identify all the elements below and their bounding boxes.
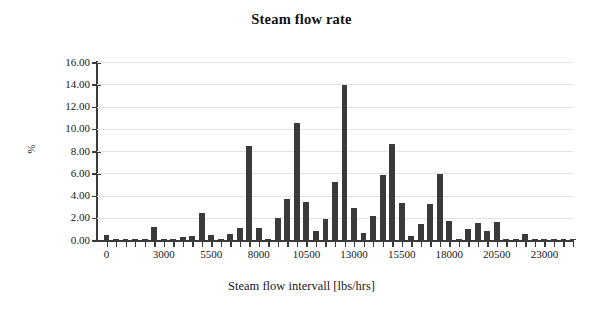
x-axis-tick-mark xyxy=(468,241,469,247)
x-axis-tick-mark xyxy=(249,241,250,247)
x-axis-tick-mark xyxy=(516,241,517,247)
x-axis-tick-mark xyxy=(354,241,355,247)
bar xyxy=(237,228,243,240)
x-axis-tick-mark xyxy=(478,241,479,247)
y-axis-tick-label: 2.00 xyxy=(44,212,90,223)
x-axis-tick-mark xyxy=(325,241,326,247)
gridline xyxy=(97,129,573,130)
gridline xyxy=(97,151,573,152)
bar xyxy=(361,233,367,240)
x-axis-tick-mark xyxy=(126,241,127,247)
x-axis-tick-mark xyxy=(345,241,346,247)
x-axis-tick-mark xyxy=(164,241,165,247)
y-axis-tick-labels: 16.0014.0012.0010.008.006.004.002.000.00 xyxy=(42,0,90,313)
chart-title: Steam flow rate xyxy=(0,11,603,28)
x-axis-tick-mark xyxy=(183,241,184,247)
x-axis-tick-label: 23000 xyxy=(514,248,574,261)
x-axis-tick-mark xyxy=(211,241,212,247)
x-axis-tick-mark xyxy=(335,241,336,247)
x-axis-tick-mark xyxy=(459,241,460,247)
x-axis-tick-mark xyxy=(316,241,317,247)
x-axis-tick-mark xyxy=(221,241,222,247)
x-axis-tick-mark xyxy=(297,241,298,247)
x-axis-tick-mark xyxy=(544,241,545,247)
x-axis-tick-mark xyxy=(430,241,431,247)
x-axis-tick-mark xyxy=(268,241,269,247)
x-axis-tick-mark xyxy=(230,241,231,247)
x-axis-tick-mark xyxy=(535,241,536,247)
gridline xyxy=(97,107,573,108)
x-axis-tick-mark xyxy=(440,241,441,247)
x-axis-tick-mark xyxy=(306,241,307,247)
bar xyxy=(484,231,490,240)
x-axis-tick-mark xyxy=(497,241,498,247)
x-axis-tick-mark xyxy=(202,241,203,247)
x-axis-tick-mark xyxy=(411,241,412,247)
bar xyxy=(446,221,452,240)
x-axis-tick-mark xyxy=(563,241,564,247)
x-axis-tick-mark xyxy=(392,241,393,247)
x-axis-tick-mark xyxy=(116,241,117,247)
x-axis-tick-mark xyxy=(154,241,155,247)
bar xyxy=(294,123,300,240)
x-axis-tick-mark xyxy=(278,241,279,247)
bar xyxy=(380,175,386,240)
bar xyxy=(399,203,405,240)
x-axis-tick-mark xyxy=(173,241,174,247)
x-axis-tick-label: 0 xyxy=(77,248,137,261)
x-axis-tick-mark xyxy=(373,241,374,247)
chart-figure: Steam flow rate % 16.0014.0012.0010.008.… xyxy=(0,0,603,313)
bar xyxy=(246,146,252,240)
y-axis-tick-label: 12.00 xyxy=(44,101,90,112)
x-axis-tick-mark xyxy=(449,241,450,247)
gridline xyxy=(97,84,573,85)
bar xyxy=(275,218,281,240)
bar xyxy=(465,229,471,240)
y-axis-tick-label: 0.00 xyxy=(44,235,90,246)
gridline xyxy=(97,173,573,174)
bar xyxy=(199,213,205,240)
x-axis-tick-mark xyxy=(287,241,288,247)
x-axis-tick-mark xyxy=(506,241,507,247)
x-axis-tick-mark xyxy=(259,241,260,247)
x-axis-tick-mark xyxy=(135,241,136,247)
bar xyxy=(494,222,500,240)
x-axis-tick-mark xyxy=(525,241,526,247)
x-axis-tick-mark xyxy=(487,241,488,247)
y-axis-tick-label: 4.00 xyxy=(44,190,90,201)
bar xyxy=(332,182,338,240)
x-axis-tick-mark xyxy=(192,241,193,247)
x-axis-tick-mark xyxy=(364,241,365,247)
x-axis-tick-mark xyxy=(402,241,403,247)
bar xyxy=(342,85,348,240)
bar xyxy=(313,231,319,240)
bar xyxy=(323,219,329,240)
bar xyxy=(389,144,395,240)
x-axis-tick-mark xyxy=(421,241,422,247)
y-axis-tick-label: 14.00 xyxy=(44,79,90,90)
bar xyxy=(303,202,309,240)
bar xyxy=(256,228,262,240)
bar xyxy=(370,216,376,240)
y-axis-tick-label: 10.00 xyxy=(44,123,90,134)
y-axis-title: % xyxy=(25,144,37,153)
plot-area xyxy=(97,62,573,240)
x-axis-tick-mark xyxy=(145,241,146,247)
y-axis-tick-label: 8.00 xyxy=(44,146,90,157)
x-axis-tick-mark xyxy=(383,241,384,247)
bar xyxy=(475,223,481,240)
x-axis-tick-mark xyxy=(573,241,574,247)
x-axis-title: Steam flow intervall [lbs/hrs] xyxy=(0,279,603,294)
y-axis-tick-label: 6.00 xyxy=(44,168,90,179)
y-axis-tick-label: 16.00 xyxy=(44,57,90,68)
bar xyxy=(437,174,443,240)
x-axis-tick-mark xyxy=(107,241,108,247)
gridline xyxy=(97,62,573,63)
bar xyxy=(151,227,157,240)
bar xyxy=(351,208,357,240)
bar xyxy=(284,199,290,240)
x-axis-tick-mark xyxy=(554,241,555,247)
bar xyxy=(418,224,424,240)
x-axis-tick-mark xyxy=(240,241,241,247)
bar xyxy=(427,204,433,240)
